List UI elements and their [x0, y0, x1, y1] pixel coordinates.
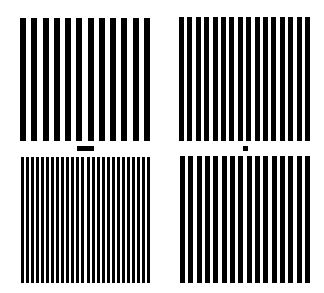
grating-bar [238, 156, 243, 283]
grating-bar [196, 17, 201, 141]
grating-bar [180, 156, 185, 283]
grating-bar [46, 157, 49, 283]
grating-bar [20, 18, 26, 141]
grating-bar [31, 157, 34, 283]
bottom-left-grating [21, 157, 150, 283]
grating-bar [213, 156, 218, 283]
grating-bar [117, 157, 120, 283]
grating-bar [122, 157, 125, 283]
grating-bar [280, 17, 285, 141]
grating-bar [263, 17, 268, 141]
grating-bar [66, 157, 69, 283]
bottom-right-grating [180, 156, 310, 283]
grating-bar [247, 156, 252, 283]
grating-bar [21, 157, 24, 283]
grating-bar [132, 157, 135, 283]
grating-bar [272, 156, 277, 283]
grating-bar [112, 157, 115, 283]
grating-bar [43, 18, 49, 141]
top-right-grating [179, 17, 310, 141]
grating-bar [31, 18, 37, 141]
grating-bar [204, 17, 209, 141]
top-left-grating [20, 18, 150, 141]
grating-bar [56, 157, 59, 283]
grating-bar [97, 157, 100, 283]
grating-bar [179, 17, 184, 141]
grating-bar [137, 157, 140, 283]
grating-bar [61, 157, 64, 283]
grating-bar [142, 157, 145, 283]
grating-bar [288, 156, 293, 283]
grating-bar [297, 156, 302, 283]
grating-bar [110, 18, 116, 141]
grating-bar [229, 17, 234, 141]
grating-bar [127, 157, 130, 283]
grating-bar [144, 18, 150, 141]
grating-bar [54, 18, 60, 141]
grating-bar [238, 17, 243, 141]
grating-bar [76, 18, 82, 141]
grating-bar [88, 18, 94, 141]
grating-bar [41, 157, 44, 283]
grating-bar [65, 18, 71, 141]
grating-bar [221, 17, 226, 141]
grating-bar [51, 157, 54, 283]
grating-bar [102, 157, 105, 283]
grating-bar [305, 17, 310, 141]
grating-bar [187, 17, 192, 141]
grating-bar [36, 157, 39, 283]
grating-bar [188, 156, 193, 283]
scale-bar-square [243, 146, 248, 151]
grating-bar [222, 156, 227, 283]
grating-bar [230, 156, 235, 283]
grating-bar [81, 157, 84, 283]
grating-bar [107, 157, 110, 283]
grating-bar [76, 157, 79, 283]
grating-bar [255, 156, 260, 283]
grating-bar [246, 17, 251, 141]
grating-bar [297, 17, 302, 141]
grating-bar [92, 157, 95, 283]
grating-bar [121, 18, 127, 141]
grating-bar [87, 157, 90, 283]
grating-bar [26, 157, 29, 283]
grating-bar [99, 18, 105, 141]
grating-bar [305, 156, 310, 283]
grating-bar [255, 17, 260, 141]
grating-bar [280, 156, 285, 283]
grating-bar [133, 18, 139, 141]
grating-bar [271, 17, 276, 141]
grating-bar [213, 17, 218, 141]
grating-bar [71, 157, 74, 283]
grating-bar [288, 17, 293, 141]
grating-bar [263, 156, 268, 283]
grating-bar [147, 157, 150, 283]
grating-bar [205, 156, 210, 283]
grating-bar [197, 156, 202, 283]
scale-bar-rect [77, 146, 94, 151]
